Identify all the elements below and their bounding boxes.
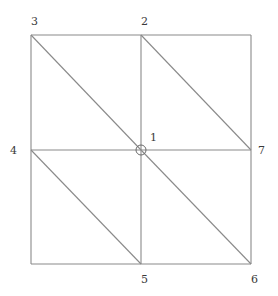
node-label-1: 1 xyxy=(150,131,157,144)
node-label-6: 6 xyxy=(251,273,258,286)
edge-4-5 xyxy=(31,150,141,264)
mesh-edges xyxy=(31,35,251,264)
edge-1-6 xyxy=(141,150,251,264)
edge-2-7 xyxy=(141,35,251,150)
triangular-mesh-diagram: 1234567 xyxy=(0,0,278,296)
node-label-4: 4 xyxy=(10,144,17,157)
node-label-5: 5 xyxy=(141,273,148,286)
node-label-3: 3 xyxy=(31,15,38,28)
node-label-7: 7 xyxy=(258,144,265,157)
edge-3-1 xyxy=(31,35,141,150)
node-label-2: 2 xyxy=(141,15,148,28)
